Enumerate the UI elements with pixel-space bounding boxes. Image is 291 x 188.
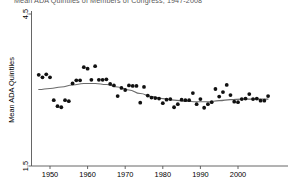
data-point: [161, 101, 165, 105]
data-point: [150, 96, 154, 100]
data-point: [187, 98, 191, 102]
data-point: [262, 99, 266, 103]
data-point: [142, 85, 146, 89]
data-point: [71, 82, 75, 86]
data-point: [232, 100, 236, 104]
data-point: [172, 105, 176, 109]
data-point: [183, 98, 187, 102]
x-tick-label: 2000: [230, 170, 246, 179]
data-point: [251, 97, 255, 101]
data-point: [63, 98, 67, 102]
data-point: [206, 102, 210, 106]
data-point: [165, 98, 169, 102]
data-point: [202, 106, 206, 110]
data-point: [108, 82, 112, 86]
data-point: [123, 88, 127, 92]
data-point: [44, 72, 48, 76]
data-point: [56, 104, 60, 108]
data-point: [244, 97, 248, 101]
x-tick-label: 1960: [79, 170, 95, 179]
data-point: [67, 99, 71, 103]
data-point: [93, 64, 97, 68]
data-point: [153, 96, 157, 100]
data-point: [82, 65, 86, 69]
x-tick-label: 1980: [155, 170, 171, 179]
data-point: [168, 97, 172, 101]
y-tick-label: 4.5: [21, 9, 30, 19]
data-point: [195, 102, 199, 106]
data-point: [59, 105, 63, 109]
data-point: [217, 95, 221, 99]
data-point: [131, 84, 135, 88]
data-point: [225, 83, 229, 87]
data-point: [180, 98, 184, 102]
data-point: [199, 97, 203, 101]
data-point: [116, 94, 120, 98]
data-point: [97, 78, 101, 82]
chart-figure: Mean ADA Quintiles of Members of Congres…: [0, 0, 291, 188]
scatter-plot: 1.54.5Mean ADA Quintiles1950196019701980…: [0, 0, 291, 188]
data-point: [86, 67, 90, 71]
data-point: [74, 78, 78, 82]
data-point: [135, 84, 139, 88]
x-tick-label: 1950: [42, 170, 58, 179]
trend-line: [39, 83, 268, 101]
data-point: [191, 91, 195, 95]
data-point: [120, 86, 124, 90]
data-point: [210, 100, 214, 104]
data-point: [157, 97, 161, 101]
data-point: [240, 97, 244, 101]
data-point: [236, 100, 240, 104]
data-point: [259, 99, 263, 103]
data-point: [78, 78, 82, 82]
data-point: [138, 101, 142, 105]
y-tick-label: 1.5: [21, 161, 30, 171]
data-point: [221, 90, 225, 94]
data-point: [89, 78, 93, 82]
data-point: [48, 75, 52, 79]
data-point: [52, 98, 56, 102]
data-point: [41, 75, 45, 79]
data-point: [127, 84, 131, 88]
x-tick-label: 1990: [192, 170, 208, 179]
data-point: [101, 78, 105, 82]
data-point: [247, 92, 251, 96]
x-tick-label: 1970: [117, 170, 133, 179]
data-point: [266, 94, 270, 98]
y-axis-title: Mean ADA Quintiles: [7, 57, 16, 123]
data-point: [146, 94, 150, 98]
data-point: [112, 84, 116, 88]
data-point: [255, 97, 259, 101]
data-point: [105, 77, 109, 81]
data-point: [176, 102, 180, 106]
data-point: [37, 73, 41, 77]
data-point: [214, 87, 218, 91]
data-point: [229, 93, 233, 97]
